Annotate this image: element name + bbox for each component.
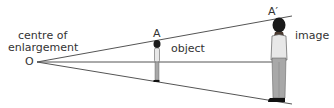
ray-lines (37, 16, 292, 104)
ray-bottom (37, 62, 292, 104)
ray-top (37, 16, 292, 62)
point-a-label: A (153, 28, 161, 40)
point-a-prime-label: A′ (268, 6, 278, 18)
image-figure (268, 18, 287, 103)
enlargement-diagram (0, 0, 334, 108)
image-label: image (295, 30, 329, 42)
object-label: object (171, 43, 205, 55)
origin-label: O (25, 56, 34, 68)
object-figure (154, 40, 161, 82)
centre-label-line2: enlargement (8, 42, 78, 54)
